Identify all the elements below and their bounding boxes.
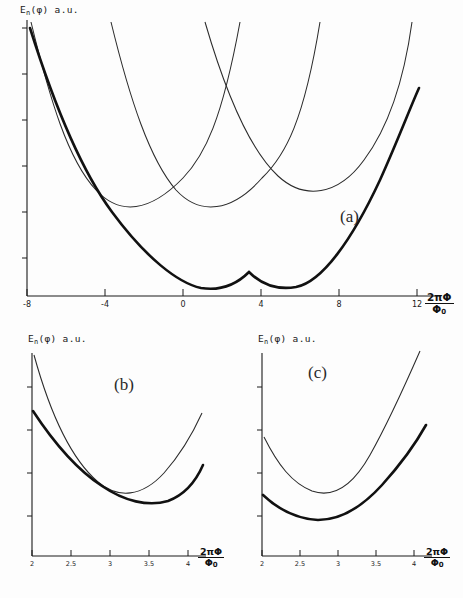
panel-a-parabola-3 (205, 22, 412, 191)
panel-b-tick-label: 3.5 (144, 560, 154, 568)
panel-a-tick-label: -4 (101, 300, 109, 309)
panel-a-x-ticks (27, 289, 417, 296)
figure-root: En(φ) a.u. (0, 0, 463, 598)
panel-a-tick-label: 8 (336, 300, 341, 309)
panel-a-tick-label: 4 (258, 300, 263, 309)
panel-a-tick-label: -8 (23, 300, 31, 309)
panel-c-tick-label: 3 (336, 560, 340, 568)
panel-c-x-ticks (262, 550, 414, 556)
panel-c-y-axis-label: En(φ) a.u. (258, 333, 317, 346)
panel-a: En(φ) a.u. (0, 0, 463, 325)
panel-a-y-axis-label: En(φ) a.u. (20, 4, 79, 17)
panel-b-x-ticks (32, 550, 188, 556)
panel-c-tick-label: 4 (412, 560, 416, 568)
panel-b-y-ticks (27, 387, 32, 516)
panel-c-tag: (c) (308, 363, 327, 383)
panel-b-y-axis-label: En(φ) a.u. (28, 333, 87, 346)
panel-a-y-ticks (22, 28, 27, 258)
panel-b-tick-label: 2 (30, 560, 34, 568)
panel-c-tick-label: 3.5 (371, 560, 381, 568)
panel-b-tick-label: 4 (186, 560, 190, 568)
panel-b-tick-label: 3 (108, 560, 112, 568)
panel-b-tick-label: 2.5 (66, 560, 76, 568)
panel-b: En(φ) a.u. 2 2.5 3 3.5 4 (6, 325, 238, 598)
panel-c-ground-state-envelope (263, 425, 426, 520)
panel-a-tick-label: 0 (180, 300, 185, 309)
panel-c-x-axis-label: 2πΦ Φ0 (424, 547, 450, 569)
panel-c: En(φ) a.u. 2 2.5 3 3.5 4 (236, 325, 463, 598)
panel-c-parabola-thin (264, 351, 420, 493)
panel-a-ground-state-envelope (30, 28, 419, 289)
panel-a-parabola-2 (111, 22, 320, 207)
panel-a-tick-label: 12 (412, 300, 422, 309)
panel-a-tag: (a) (340, 207, 359, 227)
panel-a-x-axis-label: 2πΦ Φ0 (425, 292, 454, 316)
panel-a-plot (0, 0, 463, 325)
panel-c-y-ticks (257, 387, 262, 516)
panel-c-tick-label: 2 (260, 560, 264, 568)
panel-c-tick-label: 2.5 (295, 560, 305, 568)
panel-a-parabola-1 (31, 22, 240, 207)
panel-b-tag: (b) (114, 375, 134, 395)
panel-b-x-axis-label: 2πΦ Φ0 (198, 547, 224, 569)
